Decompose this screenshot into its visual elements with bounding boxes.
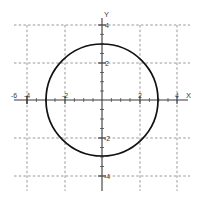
x-tick-label--2: -2 [62,92,68,99]
x-tick-label-2: 2 [138,92,142,99]
x-tick-label--4: -4 [24,92,30,99]
y-tick-label--4: -4 [104,173,110,180]
graph-figure: -6 -4 -2 2 4 4 2 -2 -4 Y X [0,0,197,205]
y-tick-label--2: -2 [104,135,110,142]
y-tick-label-4: 4 [105,22,109,29]
coordinate-plane-svg: -6 -4 -2 2 4 4 2 -2 -4 Y X [0,0,197,205]
x-tick-label-4: 4 [175,92,179,99]
y-axis-label: Y [104,10,109,19]
y-tick-label-2: 2 [105,60,109,67]
x-axis-label: X [186,91,191,100]
x-tick-label--6: -6 [11,92,17,99]
